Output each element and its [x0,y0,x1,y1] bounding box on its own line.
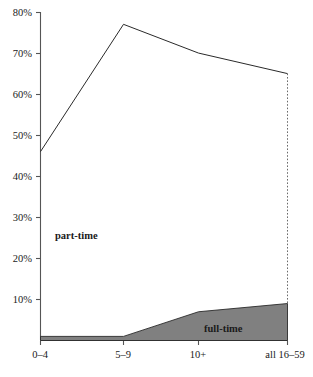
y-tick-label-30: 30% [13,212,33,223]
x-tick-label-0: 0–4 [32,349,49,360]
x-tick-label-2: 10+ [190,349,207,360]
chart-container: 80% 70% 60% 50% 40% 30% 20% 10% 0–4 5–9 … [0,0,313,377]
y-tick-label-80: 80% [13,7,33,18]
series-annotation-part-time: part-time [55,230,98,241]
y-tick-label-50: 50% [13,130,33,141]
x-tick-label-1: 5–9 [115,349,131,360]
y-tick-label-40: 40% [13,171,33,182]
y-tick-label-10: 10% [13,294,33,305]
y-tick-label-60: 60% [13,89,33,100]
x-tick-label-3: all 16–59 [265,349,304,360]
y-tick-label-70: 70% [13,48,33,59]
y-tick-label-20: 20% [13,253,33,264]
area-chart: 80% 70% 60% 50% 40% 30% 20% 10% 0–4 5–9 … [0,0,313,377]
series-annotation-full-time: full-time [204,323,243,334]
